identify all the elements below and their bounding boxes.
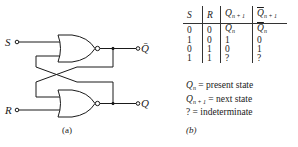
figure-a-caption: (a) bbox=[62, 125, 72, 135]
cell-q-next: ? bbox=[221, 54, 253, 63]
cell-s: 1 bbox=[183, 36, 203, 45]
upper-nor-bubble bbox=[95, 46, 99, 50]
sr-latch-truth-table: S R Qn + 1 Qn + 1 0 0 Qn Qn 1 0 1 0 0 1 … bbox=[183, 6, 287, 63]
upper-nor-gate bbox=[58, 35, 95, 62]
cell-r: 1 bbox=[203, 54, 221, 63]
table-row: 1 0 1 0 bbox=[183, 36, 287, 45]
q-bar-output-label: Q̄ bbox=[141, 43, 149, 54]
lower-nor-bubble bbox=[95, 101, 99, 105]
cell-q-bar-next: ? bbox=[253, 54, 288, 63]
header-q-bar-next: Qn + 1 bbox=[253, 6, 288, 24]
r-input-terminal bbox=[15, 108, 19, 112]
q-bar-output-terminal bbox=[136, 47, 140, 51]
table-header-row: S R Qn + 1 Qn + 1 bbox=[183, 6, 287, 24]
s-input-terminal bbox=[15, 40, 19, 44]
table-row: 0 0 Qn Qn bbox=[183, 24, 287, 37]
figure-b-caption: (b) bbox=[186, 125, 197, 135]
sr-latch-circuit-diagram: S R Q̄ Q (a) bbox=[0, 0, 150, 147]
cell-s: 1 bbox=[183, 54, 203, 63]
header-s: S bbox=[183, 6, 203, 24]
nor-latch-schematic bbox=[0, 0, 150, 147]
cell-s: 0 bbox=[183, 45, 203, 54]
table-row: 0 1 0 1 bbox=[183, 45, 287, 54]
header-r: R bbox=[203, 6, 221, 24]
header-q-next: Qn + 1 bbox=[221, 6, 253, 24]
legend-item-present-state: Qn = present state bbox=[186, 80, 253, 94]
junction-dot-lower bbox=[112, 102, 114, 104]
truth-table-legend: Qn = present state Qn + 1 = next state ?… bbox=[186, 80, 253, 118]
legend-item-indeterminate: ? = indeterminate bbox=[186, 107, 253, 118]
legend-item-next-state: Qn + 1 = next state bbox=[186, 94, 253, 108]
cell-s: 0 bbox=[183, 24, 203, 37]
table-row: 1 1 ? ? bbox=[183, 54, 287, 63]
s-input-label: S bbox=[5, 37, 11, 48]
lower-nor-gate bbox=[58, 90, 95, 117]
q-output-label: Q bbox=[141, 98, 149, 109]
r-input-label: R bbox=[5, 105, 12, 116]
q-output-terminal bbox=[136, 102, 140, 106]
